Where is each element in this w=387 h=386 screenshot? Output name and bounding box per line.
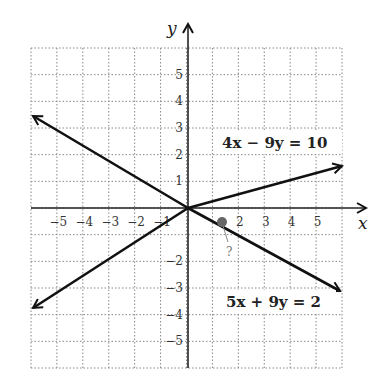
y-tick-label: 2	[175, 148, 183, 162]
intersection-point	[217, 217, 227, 227]
equation-label-2: 5x + 9y = 2	[226, 293, 321, 311]
y-axis-label: y	[166, 18, 177, 38]
y-tick-label: −3	[165, 281, 183, 295]
equation-label-1: 4x − 9y = 10	[222, 134, 327, 152]
line-5x-9y-2	[33, 116, 188, 208]
x-tick-label: −4	[75, 215, 93, 229]
x-tick-label: 3	[262, 215, 270, 229]
y-tick-label: 3	[175, 121, 183, 135]
line-4x-9y-10	[188, 166, 342, 208]
x-tick-label: −3	[101, 215, 119, 229]
x-tick-label: 4	[288, 215, 296, 229]
y-tick-label: 4	[175, 94, 183, 108]
y-tick-label: 5	[175, 68, 183, 82]
question-mark: ?	[226, 245, 232, 259]
y-tick-label: −4	[165, 308, 183, 322]
y-tick-label: −5	[165, 334, 183, 348]
coordinate-plane: y x −5−4−3−2−1234554321−2−3−4−5 ? 4x − 9…	[0, 0, 387, 386]
x-tick-label: 2	[236, 215, 244, 229]
x-tick-label: 5	[314, 215, 322, 229]
y-tick-label: −2	[165, 254, 183, 268]
y-tick-label: 1	[175, 174, 183, 188]
x-tick-label: −2	[127, 215, 145, 229]
x-axis-label: x	[358, 213, 368, 233]
x-tick-label: −5	[50, 215, 68, 229]
